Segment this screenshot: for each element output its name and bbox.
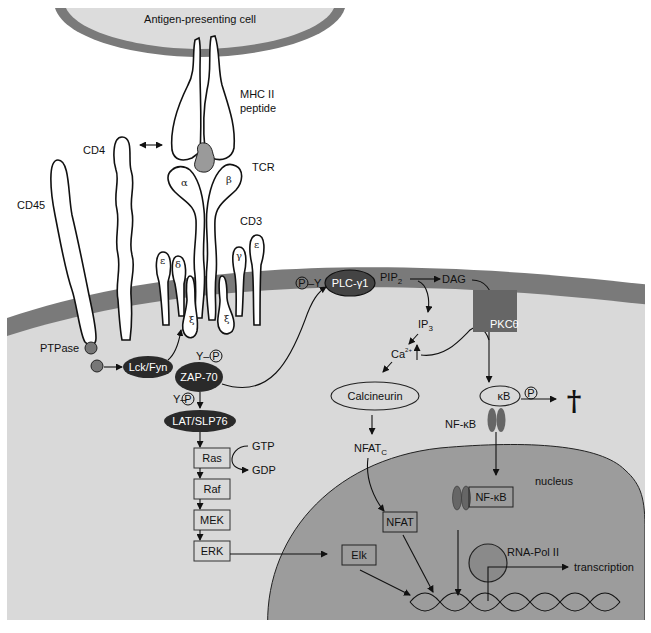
- tcr-signaling-diagram: Antigen-presenting cell MHC II peptide C…: [0, 0, 651, 633]
- zap70-y-upper: Y–: [196, 350, 210, 362]
- cd3-zeta-right-label: ξ: [224, 313, 230, 324]
- lck-fyn-label: Lck/Fyn: [129, 361, 168, 373]
- dagger-icon: †: [567, 385, 582, 418]
- ptpase-domain-2: [91, 360, 103, 372]
- cd3-label: CD3: [240, 215, 262, 227]
- nucleus-label: nucleus: [535, 475, 573, 487]
- nfat-label: NFAT: [386, 516, 414, 528]
- elk-label: Elk: [351, 549, 367, 561]
- tcr-beta-label: β: [226, 174, 232, 185]
- transcription-label: transcription: [574, 561, 634, 573]
- nfkb-subunit-2: [497, 408, 506, 432]
- erk-label: ERK: [201, 545, 224, 557]
- dag-label: DAG: [442, 273, 466, 285]
- gtp-label: GTP: [252, 440, 275, 452]
- svg-text:P: P: [298, 277, 305, 289]
- apc-label: Antigen-presenting cell: [144, 13, 256, 25]
- tcr-alpha-label: α: [181, 177, 188, 188]
- cd4-label: CD4: [83, 144, 105, 156]
- nfkb-nuc-label: NF-κB: [475, 491, 506, 503]
- plc-y-label: –Y: [308, 277, 322, 289]
- kb-label: κB: [498, 390, 511, 402]
- zap70-label: ZAP-70: [180, 371, 217, 383]
- calcineurin-label: Calcineurin: [347, 390, 402, 402]
- plc-label: PLC-γ1: [332, 277, 369, 289]
- rna-pol-label: RNA-Pol II: [507, 546, 559, 558]
- peptide: [195, 143, 215, 172]
- phosphate-upper-label: P: [212, 350, 219, 362]
- cd3-epsilon-right-label: ε: [254, 239, 259, 250]
- raf-label: Raf: [203, 483, 221, 495]
- mhc-label-1: MHC II: [240, 88, 274, 100]
- ptpase-domain-1: [85, 342, 97, 354]
- cd3-epsilon-left-label: ε: [160, 255, 165, 266]
- cd3-gamma-label: γ: [236, 250, 242, 261]
- nfkb-cyto-label: NF-κB: [445, 418, 476, 430]
- lat-slp76-label: LAT/SLP76: [172, 415, 227, 427]
- cd3-delta-label: δ: [175, 259, 181, 270]
- t-cell: [7, 267, 651, 633]
- phosphate-lower-label: P: [184, 393, 191, 405]
- mhc-label-2: peptide: [240, 102, 276, 114]
- pkc-label: PKCθ: [490, 318, 519, 330]
- ras-label: Ras: [202, 452, 222, 464]
- gdp-label: GDP: [252, 464, 276, 476]
- cd45-label: CD45: [17, 199, 45, 211]
- svg-text:P: P: [527, 387, 534, 399]
- ptpase-label: PTPase: [40, 342, 79, 354]
- tcr-label: TCR: [252, 161, 275, 173]
- mek-label: MEK: [200, 514, 225, 526]
- cd3-zeta-left-label: ξ: [189, 314, 195, 325]
- nfkb-subunit-1: [488, 408, 497, 432]
